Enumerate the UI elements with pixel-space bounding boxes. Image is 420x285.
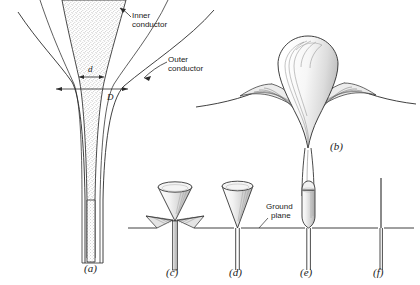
antenna-figure-plate: Inner conductor Outer conductor d D Grou… bbox=[0, 0, 420, 285]
ground-plane-label: Ground plane bbox=[266, 203, 293, 220]
panel-e-drawing bbox=[288, 181, 352, 270]
outer-conductor-leader bbox=[144, 62, 167, 81]
panel-b-drawing bbox=[196, 36, 416, 196]
panel-b-bulb bbox=[278, 36, 338, 148]
caption-f: (f) bbox=[373, 266, 383, 278]
panel-f-drawing bbox=[352, 178, 414, 270]
inner-conductor-label: Inner conductor bbox=[132, 12, 167, 29]
panel-c-skirt-left bbox=[146, 216, 173, 228]
caption-a: (a) bbox=[84, 262, 97, 274]
caption-d: (d) bbox=[229, 266, 242, 278]
panel-d-feed-line bbox=[236, 228, 240, 270]
outer-conductor-label: Outer conductor bbox=[168, 56, 203, 73]
dimension-label-d: d bbox=[88, 64, 93, 74]
panel-f-feed-line bbox=[380, 228, 382, 270]
panel-e-feed-line bbox=[307, 228, 311, 270]
caption-e: (e) bbox=[300, 266, 312, 278]
figure-drawing bbox=[0, 0, 420, 285]
caption-c: (c) bbox=[166, 266, 178, 278]
panel-c-drawing bbox=[128, 182, 216, 270]
dimension-label-D: D bbox=[107, 92, 114, 102]
inner-conductor-stem bbox=[87, 200, 95, 262]
panel-c-feed-stem bbox=[173, 221, 178, 270]
panel-d-drawing bbox=[216, 181, 288, 270]
caption-b: (b) bbox=[330, 140, 343, 152]
panel-e-cylinder-cap bbox=[302, 181, 315, 190]
panel-d-cone-body bbox=[222, 186, 253, 228]
panel-c-skirt-right bbox=[177, 216, 204, 228]
